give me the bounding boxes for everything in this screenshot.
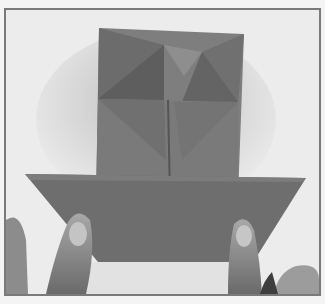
left-thumbnail bbox=[69, 222, 87, 246]
right-thumbnail bbox=[236, 225, 252, 247]
origami-upper-section bbox=[96, 28, 244, 198]
origami-photo bbox=[6, 10, 319, 294]
left-hand bbox=[6, 213, 92, 294]
photo-frame bbox=[4, 8, 321, 296]
right-hand bbox=[228, 219, 319, 294]
